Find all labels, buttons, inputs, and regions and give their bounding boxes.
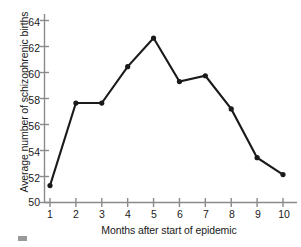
scan-artifact [18, 236, 27, 241]
data-point [255, 155, 260, 160]
axis-lines [45, 14, 298, 203]
data-point [47, 183, 52, 188]
data-line [50, 38, 283, 186]
data-point [280, 172, 285, 177]
plot-area [0, 0, 301, 247]
data-point [151, 35, 156, 40]
data-point [229, 106, 234, 111]
data-point [125, 64, 130, 69]
chart-figure: Average number of schizophrenic births M… [0, 0, 301, 247]
data-point [177, 79, 182, 84]
data-point [73, 100, 78, 105]
data-point [99, 100, 104, 105]
data-point [203, 73, 208, 78]
